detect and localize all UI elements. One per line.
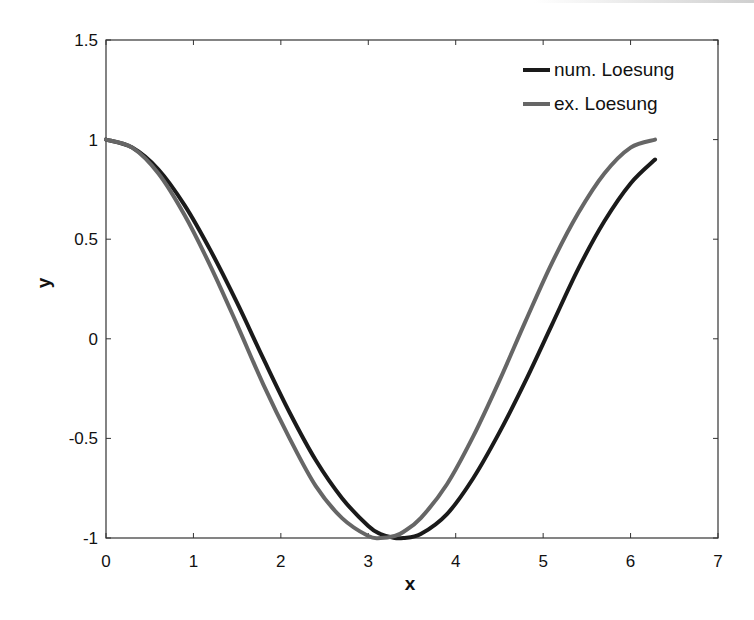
data-curves <box>106 140 655 539</box>
legend-entry-label: ex. Loesung <box>554 93 658 114</box>
series-line-0 <box>106 140 655 539</box>
x-tick-label: 7 <box>713 552 722 571</box>
legend-entry-label: num. Loesung <box>554 59 674 80</box>
y-tick-label: 1 <box>89 131 98 150</box>
x-tick-label: 2 <box>276 552 285 571</box>
x-tick-label: 6 <box>626 552 635 571</box>
y-tick-label: -1 <box>83 529 98 548</box>
axes-frame <box>106 40 718 538</box>
x-tick-label: 3 <box>364 552 373 571</box>
x-tick-label: 1 <box>189 552 198 571</box>
y-tick-label: -0.5 <box>69 429 98 448</box>
legend: num. Loesungex. Loesung <box>523 59 674 114</box>
x-tick-label: 0 <box>101 552 110 571</box>
y-tick-label: 0.5 <box>74 230 98 249</box>
series-line-1 <box>106 140 655 539</box>
y-axis-label: y <box>33 277 54 288</box>
x-tick-label: 5 <box>538 552 547 571</box>
y-tick-label: 1.5 <box>74 31 98 50</box>
x-tick-label: 4 <box>451 552 460 571</box>
x-axis-label: x <box>405 573 416 594</box>
y-tick-label: 0 <box>89 330 98 349</box>
line-chart: 012345671.510.50-0.5-1 x y num. Loesunge… <box>0 0 754 620</box>
plot-area <box>106 40 718 538</box>
